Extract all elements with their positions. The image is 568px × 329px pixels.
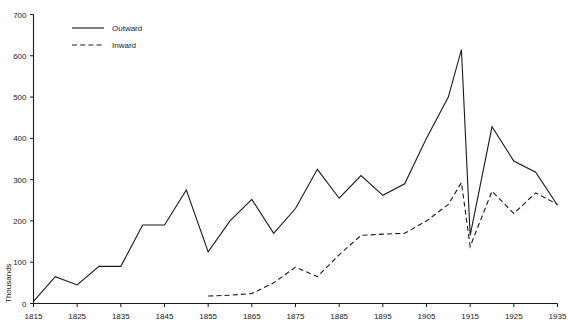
- x-tick-label: 1915: [461, 312, 479, 321]
- data-series-group: [34, 50, 558, 302]
- x-tick-label: 1895: [374, 312, 392, 321]
- x-tick-label: 1835: [112, 312, 130, 321]
- x-tick-labels: 1815182518351845185518651875188518951905…: [25, 312, 567, 321]
- y-tick-label: 400: [13, 134, 27, 143]
- series-line-inward: [208, 183, 557, 297]
- y-tick-label: 300: [13, 176, 27, 185]
- x-tick-label: 1865: [243, 312, 261, 321]
- chart-canvas: 0100200300400500600700 18151825183518451…: [0, 0, 568, 329]
- x-tick-label: 1855: [199, 312, 217, 321]
- x-tick-label: 1875: [287, 312, 305, 321]
- x-tick-label: 1885: [330, 312, 348, 321]
- legend-label-inward: Inward: [112, 41, 136, 50]
- legend-label-outward: Outward: [112, 24, 142, 33]
- y-tick-label: 100: [13, 258, 27, 267]
- y-axis: [30, 15, 34, 304]
- y-tick-label: 600: [13, 52, 27, 61]
- chart-legend: OutwardInward: [72, 24, 142, 50]
- series-line-outward: [34, 50, 558, 302]
- x-tick-label: 1845: [156, 312, 174, 321]
- y-tick-label: 700: [13, 11, 27, 20]
- x-tick-label: 1825: [68, 312, 86, 321]
- y-tick-labels: 0100200300400500600700: [13, 11, 27, 309]
- x-tick-label: 1935: [549, 312, 567, 321]
- y-tick-label: 200: [13, 217, 27, 226]
- x-tick-label: 1905: [418, 312, 436, 321]
- x-tick-label: 1925: [505, 312, 523, 321]
- x-axis: [34, 304, 558, 308]
- y-tick-label: 0: [22, 300, 27, 309]
- x-tick-label: 1815: [25, 312, 43, 321]
- y-axis-title: Thousands: [4, 263, 13, 303]
- y-tick-label: 500: [13, 93, 27, 102]
- line-chart: 0100200300400500600700 18151825183518451…: [0, 0, 568, 329]
